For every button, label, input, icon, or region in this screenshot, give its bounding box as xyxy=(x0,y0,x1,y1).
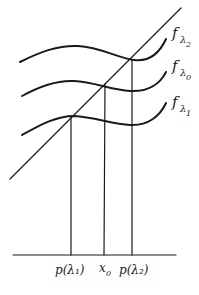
curve-f-lambda-2 xyxy=(20,39,166,62)
label-x: x xyxy=(99,261,106,275)
label-index: 0 xyxy=(186,73,191,82)
curve-f-lambda-0 xyxy=(22,72,166,96)
diagonal-line xyxy=(10,8,181,179)
label-f: f xyxy=(171,24,180,42)
label-f-lambda-1: f λ 1 xyxy=(171,93,191,118)
label-f-lambda-2: f λ 2 xyxy=(171,24,191,49)
label-index: 1 xyxy=(186,109,191,118)
label-f: f xyxy=(171,93,180,111)
diagram-canvas: f λ 2 f λ 0 f λ 1 p(λ₁) x 0 p(λ₂) xyxy=(0,0,199,295)
projection-line-x-0 xyxy=(104,84,105,255)
axis-label-x-0: x 0 xyxy=(99,261,111,278)
label-x-index: 0 xyxy=(106,269,111,278)
label-index: 2 xyxy=(185,40,191,49)
label-f: f xyxy=(171,57,180,75)
curve-f-lambda-1 xyxy=(22,103,166,135)
axis-label-p-lambda-2: p(λ₂) xyxy=(119,263,149,277)
label-f-lambda-0: f λ 0 xyxy=(171,57,191,82)
axis-label-p-lambda-1: p(λ₁) xyxy=(55,263,85,277)
